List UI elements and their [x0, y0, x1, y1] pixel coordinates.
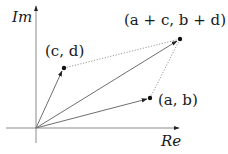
point-ab — [148, 96, 152, 100]
point-ab-label: (a, b) — [158, 91, 198, 109]
complex-plane-diagram: Im Re (c, d) (a + c, b + d) (a, b) — [0, 0, 228, 154]
point-cd-label: (c, d) — [45, 42, 84, 60]
vector-ab — [36, 99, 147, 128]
re-axis-label: Re — [160, 132, 181, 150]
im-axis-label: Im — [11, 8, 32, 26]
point-cd — [62, 66, 66, 70]
point-sum — [178, 37, 182, 41]
point-sum-label: (a + c, b + d) — [124, 11, 226, 29]
